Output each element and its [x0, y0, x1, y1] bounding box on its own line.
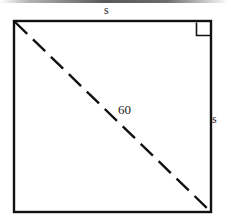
- geometry-figure: s s 60: [0, 0, 231, 224]
- label-diagonal-length: 60: [117, 103, 132, 116]
- figure-canvas: [0, 0, 231, 224]
- label-side-right: s: [212, 113, 217, 125]
- label-side-top: s: [104, 4, 109, 16]
